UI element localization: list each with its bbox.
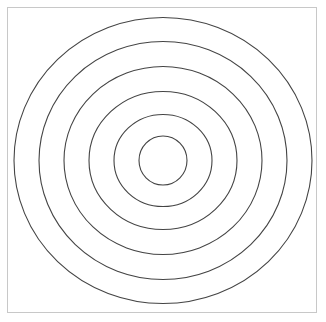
ring-4 [89,92,237,230]
ring-5 [114,115,212,207]
ring-3 [64,67,262,255]
ring-2 [39,42,287,280]
concentric-circles-diagram [0,0,326,322]
ring-6 [139,136,187,185]
ring-1 [14,18,312,304]
